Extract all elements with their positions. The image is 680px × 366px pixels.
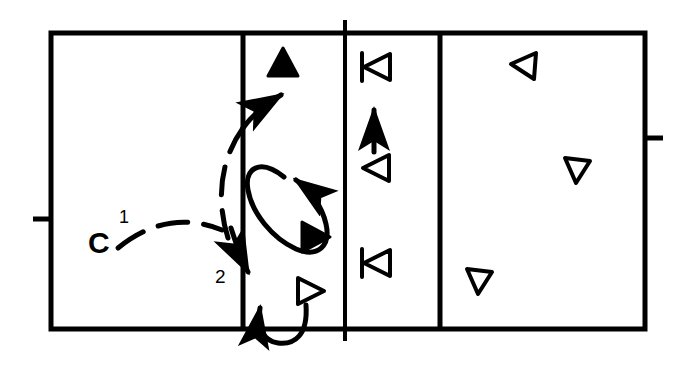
marker-hollow-left-bar-top [362, 53, 390, 81]
marker-hollow-right [298, 278, 324, 304]
bottom-u-arrow-path [259, 305, 306, 343]
triangle-hollow-right [298, 278, 324, 304]
path-1-dashed-run [118, 222, 222, 248]
marker-hollow-backrow-3 [467, 269, 492, 294]
triangle-hollow-backrow-1 [511, 53, 536, 79]
triangle-hollow-left-mid [363, 155, 389, 181]
marker-filled-up [268, 48, 298, 76]
bottom-u-arrow [259, 305, 306, 343]
marker-hollow-backrow-2 [565, 158, 590, 183]
path-number-1-label: 1 [119, 208, 129, 226]
path-number-2-label: 2 [215, 267, 226, 286]
path-1-arrow-segment [243, 95, 281, 128]
path-1-segment [118, 222, 222, 248]
triangle-hollow-backrow-3 [467, 269, 492, 294]
path-1-arc-segment [221, 128, 243, 238]
court-boundary [51, 33, 645, 329]
diagram-canvas: C 1 2 [0, 0, 680, 366]
marker-hollow-left-mid [363, 155, 389, 181]
marker-hollow-left-bar-bottom [362, 249, 390, 277]
player-label-c: C [88, 228, 110, 258]
triangle-solid-up [268, 48, 298, 76]
court-outline [51, 33, 645, 329]
court-diagram [0, 0, 680, 366]
triangle-hollow-left-bottom [364, 250, 390, 276]
triangle-hollow-backrow-2 [565, 158, 590, 183]
marker-hollow-backrow-1 [511, 53, 536, 79]
path-1-dashed-arc-up [221, 95, 281, 238]
triangle-hollow-left-top [364, 54, 390, 80]
